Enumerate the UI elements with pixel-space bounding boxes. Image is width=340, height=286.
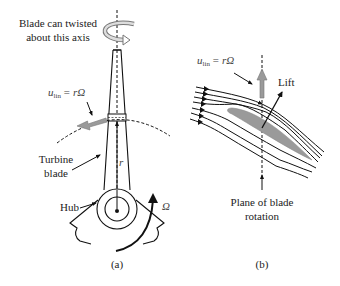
twist-label-line1: Blade can twisted: [19, 17, 98, 29]
turbine-blade-diagram: r ulin= rΩ Blade can twisted about this …: [0, 0, 340, 286]
omega-arrowhead-icon: [148, 193, 158, 203]
twist-label-line2: about this axis: [26, 31, 90, 43]
radius-label: r: [119, 156, 124, 168]
svg-text:ulin= rΩ: ulin= rΩ: [48, 86, 85, 100]
turbine-label-line2: blade: [44, 167, 68, 179]
panel-b: ulin= rΩ Lift Plane of blade rotation (b…: [190, 54, 324, 271]
turbine-label-line1: Turbine: [39, 153, 74, 165]
velocity-pointer-a: [87, 102, 92, 115]
hub-label: Hub: [60, 201, 79, 213]
twist-arrow-icon: [105, 23, 134, 45]
svg-text:ulin= rΩ: ulin= rΩ: [197, 54, 234, 68]
caption-a: (a): [111, 258, 124, 271]
streamlines: [190, 87, 324, 178]
omega-label: Ω: [162, 200, 170, 212]
panel-a: r ulin= rΩ Blade can twisted about this …: [19, 10, 170, 271]
turbine-pointer: [72, 155, 100, 170]
hub-center-dot: [115, 209, 119, 213]
lift-arrow: [262, 92, 282, 128]
rotation-circle-path: [57, 120, 170, 143]
velocity-pointer-b: [234, 73, 252, 84]
plane-label-line1: Plane of blade: [231, 196, 294, 208]
plane-label-line2: rotation: [245, 210, 280, 222]
velocity-arrow-b-icon: [257, 69, 267, 98]
velocity-arrow-a-icon: [77, 118, 107, 130]
lift-label: Lift: [278, 76, 295, 88]
caption-b: (b): [256, 258, 269, 271]
velocity-label-a: ulin= rΩ: [48, 86, 85, 100]
velocity-label-b: ulin= rΩ: [197, 54, 234, 68]
hub-pointer: [80, 203, 96, 208]
